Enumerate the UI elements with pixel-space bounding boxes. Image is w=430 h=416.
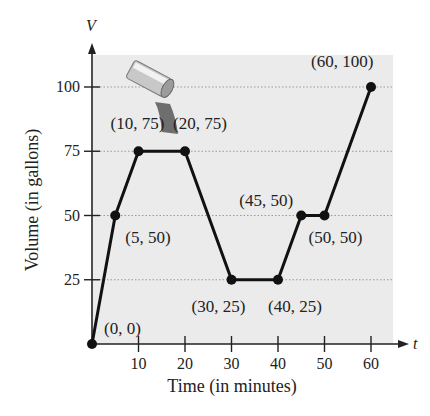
data-point — [110, 211, 120, 221]
point-label: (45, 50) — [239, 191, 293, 210]
y-tick-label: 100 — [56, 78, 80, 95]
point-label: (5, 50) — [125, 228, 170, 247]
x-tick-label: 20 — [177, 355, 193, 372]
data-point — [296, 211, 306, 221]
x-axis-variable: t — [413, 335, 418, 352]
data-point — [366, 82, 376, 92]
data-point — [180, 146, 190, 156]
y-axis-title: Volume (in gallons) — [22, 129, 43, 272]
point-label: (0, 0) — [104, 319, 141, 338]
point-label: (60, 100) — [311, 52, 373, 71]
data-point — [87, 339, 97, 349]
point-label: (40, 25) — [268, 297, 322, 316]
x-tick-label: 30 — [224, 355, 240, 372]
volume-time-chart: 255075100102030405060 (0, 0)(5, 50)(10, … — [0, 0, 430, 416]
data-point — [134, 146, 144, 156]
x-tick-label: 10 — [131, 355, 147, 372]
point-label: (30, 25) — [192, 297, 246, 316]
point-label: (50, 50) — [309, 228, 363, 247]
data-point — [320, 211, 330, 221]
x-tick-label: 40 — [270, 355, 286, 372]
y-tick-label: 25 — [64, 271, 80, 288]
y-tick-label: 75 — [64, 142, 80, 159]
y-axis-variable: V — [86, 17, 98, 34]
point-label: (10, 75) — [111, 114, 165, 133]
point-label: (20, 75) — [173, 114, 227, 133]
data-point — [227, 275, 237, 285]
x-axis-title: Time (in minutes) — [167, 376, 296, 397]
x-tick-label: 60 — [363, 355, 379, 372]
data-point — [273, 275, 283, 285]
y-tick-label: 50 — [64, 207, 80, 224]
x-tick-label: 50 — [317, 355, 333, 372]
